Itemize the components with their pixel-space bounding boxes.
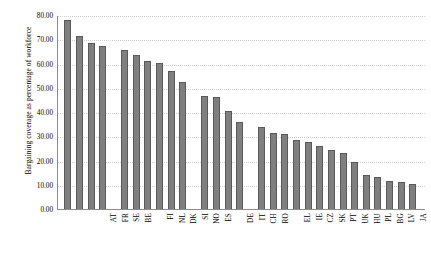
bar [281, 134, 288, 209]
bar [305, 142, 312, 209]
bar [179, 82, 186, 209]
bar [236, 122, 243, 209]
x-axis-tick-label: NL [179, 213, 187, 253]
plot-area [57, 16, 425, 210]
bar [258, 127, 265, 209]
bar [409, 184, 416, 209]
y-axis-tick-label: 30.00 [3, 133, 53, 141]
y-axis-tick-label: 60.00 [3, 61, 53, 69]
x-axis-tick-label: DE [247, 213, 255, 253]
bar [121, 50, 128, 209]
x-axis-tick-label: BE [145, 213, 153, 253]
bar [351, 162, 358, 209]
bar [99, 46, 106, 209]
bar [340, 153, 347, 209]
x-axis-tick-label: NO [213, 213, 221, 253]
bar [316, 146, 323, 209]
bar [386, 181, 393, 209]
y-axis-tick-label: 70.00 [3, 36, 53, 44]
x-axis-tick-label: PT [350, 213, 358, 253]
bar-chart: Bargaining coverage as percentage of wor… [0, 0, 431, 256]
x-axis-tick-label: CZ [327, 213, 335, 253]
x-axis-tick-label: DK [190, 213, 198, 253]
bar [225, 111, 232, 209]
bar [144, 61, 151, 209]
x-axis-tick-label: IT [259, 213, 267, 253]
x-axis-tick-label: SK [339, 213, 347, 253]
bar [398, 182, 405, 209]
bar [64, 20, 71, 209]
bar [76, 36, 83, 209]
x-axis-tick-label: RO [282, 213, 290, 253]
x-axis-tick-label: IE [316, 213, 324, 253]
bar [293, 140, 300, 209]
x-axis-tick-label: ES [225, 213, 233, 253]
bar [213, 97, 220, 209]
bar [156, 63, 163, 209]
bar [328, 150, 335, 209]
bar [88, 43, 95, 209]
y-axis-title: Bargaining coverage as percentage of wor… [24, 1, 33, 201]
x-axis-tick-label: LV [408, 213, 416, 253]
y-axis-tick-label: 80.00 [3, 12, 53, 20]
bar [374, 177, 381, 209]
x-axis-tick-label: HU [374, 213, 382, 253]
x-axis-tick-label: AT [110, 213, 118, 253]
bar-series [58, 16, 425, 209]
x-axis-tick-label: JA [420, 213, 428, 253]
y-axis-tick-label: 0.00 [3, 206, 53, 214]
y-axis-tick-label: 20.00 [3, 158, 53, 166]
y-axis-tick-label: 10.00 [3, 182, 53, 190]
x-axis-tick-label: EL [304, 213, 312, 253]
x-axis-tick-label: PL [385, 213, 393, 253]
x-axis-tick-label: BG [397, 213, 405, 253]
x-axis-tick-label: SE [133, 213, 141, 253]
x-axis-tick-label: FI [167, 213, 175, 253]
bar [133, 55, 140, 209]
y-axis-tick-label: 40.00 [3, 109, 53, 117]
y-axis-tick-label: 50.00 [3, 85, 53, 93]
bar [270, 133, 277, 209]
x-axis-tick-label: UK [362, 213, 370, 253]
x-axis-tick-label: CH [270, 213, 278, 253]
x-axis-tick-label: SI [202, 213, 210, 253]
bar [363, 175, 370, 209]
x-axis-tick-label: FR [122, 213, 130, 253]
bar [168, 71, 175, 209]
bar [201, 96, 208, 209]
